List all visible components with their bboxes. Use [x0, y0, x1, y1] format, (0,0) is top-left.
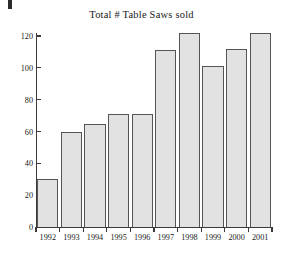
bar: [84, 124, 105, 227]
x-axis-tick: [83, 227, 84, 232]
x-axis-tick-label: 1996: [130, 233, 154, 242]
bar: [155, 50, 176, 227]
x-axis-tick-label: 1992: [36, 233, 60, 242]
x-axis-tick-label: 2000: [225, 233, 249, 242]
y-axis-tick-label: 20: [7, 191, 33, 200]
y-axis-tick: [36, 35, 41, 36]
y-axis-tick-label: 0: [7, 223, 33, 232]
x-axis-tick-label: 1999: [201, 233, 225, 242]
bar: [226, 49, 247, 227]
x-axis-tick: [271, 227, 272, 232]
x-axis-tick-label: 1993: [60, 233, 84, 242]
x-axis-tick-label: 2001: [248, 233, 272, 242]
bar: [37, 179, 58, 227]
x-axis-tick: [177, 227, 178, 232]
x-axis-tick: [248, 227, 249, 232]
y-axis-tick: [36, 131, 41, 132]
x-axis-tick: [106, 227, 107, 232]
y-axis-tick-label: 120: [7, 32, 33, 41]
y-axis-tick-label: 60: [7, 127, 33, 136]
x-axis-tick-label: 1997: [154, 233, 178, 242]
x-axis-tick: [153, 227, 154, 232]
y-axis-tick: [36, 99, 41, 100]
bar: [179, 33, 200, 227]
bar: [250, 33, 271, 227]
y-axis-tick: [36, 163, 41, 164]
bar: [108, 114, 129, 227]
y-axis-tick: [36, 67, 41, 68]
chart-title: Total # Table Saws sold: [0, 9, 283, 20]
x-axis-tick-label: 1995: [107, 233, 131, 242]
chart-figure: Total # Table Saws sold 020406080100120 …: [0, 0, 283, 255]
x-axis-tick: [201, 227, 202, 232]
x-axis-tick: [35, 227, 36, 232]
x-axis-tick: [59, 227, 60, 232]
y-axis-tick-label: 80: [7, 95, 33, 104]
y-axis-tick-label: 40: [7, 159, 33, 168]
x-axis-tick-label: 1994: [83, 233, 107, 242]
x-axis-tick: [130, 227, 131, 232]
x-axis-tick-label: 1998: [178, 233, 202, 242]
bar: [202, 66, 223, 227]
x-axis-tick: [224, 227, 225, 232]
bar: [132, 114, 153, 227]
bar: [61, 132, 82, 228]
scan-artifact: [8, 0, 12, 9]
y-axis-tick-label: 100: [7, 63, 33, 72]
